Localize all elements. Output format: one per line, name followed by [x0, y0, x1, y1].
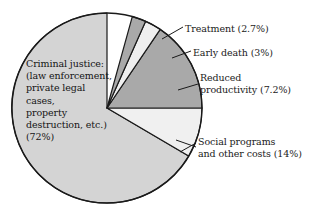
- reduced-productivity-line-1: Reduced: [200, 72, 291, 84]
- criminal-justice-line-6: destruction, etc.): [26, 119, 112, 131]
- slice-label-criminal-justice: Criminal justice: (law enforcement, priv…: [26, 58, 112, 143]
- slice-label-early-death: Early death (3%): [193, 47, 273, 59]
- social-programs-line-2: and other costs (14%): [198, 148, 302, 160]
- reduced-productivity-line-2: productivity (7.2%): [200, 84, 291, 96]
- slice-label-reduced-productivity: Reduced productivity (7.2%): [200, 72, 291, 95]
- slice-label-treatment: Treatment (2.7%): [185, 23, 269, 35]
- pie-chart-figure: Criminal justice: (law enforcement, priv…: [0, 0, 322, 207]
- criminal-justice-line-7: (72%): [26, 131, 112, 143]
- criminal-justice-line-1: Criminal justice:: [26, 58, 112, 70]
- criminal-justice-line-5: property: [26, 107, 112, 119]
- criminal-justice-line-3: private legal: [26, 82, 112, 94]
- slice-label-social-programs: Social programs and other costs (14%): [198, 136, 302, 159]
- criminal-justice-line-4: cases,: [26, 95, 112, 107]
- social-programs-line-1: Social programs: [198, 136, 302, 148]
- criminal-justice-line-2: (law enforcement,: [26, 70, 112, 82]
